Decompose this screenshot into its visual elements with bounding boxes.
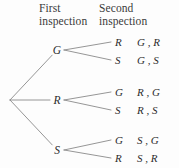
node-second-inspection-s-r: R bbox=[115, 153, 122, 164]
edge-r-to-s-1 bbox=[64, 100, 111, 110]
node-first-inspection-s: S bbox=[54, 145, 60, 156]
node-second-inspection-g-r: R bbox=[115, 37, 122, 48]
node-second-inspection-s-g: G bbox=[115, 135, 123, 146]
outcome-pair-s-g: S , G bbox=[137, 135, 159, 146]
outcome-pair-g-s: G , S bbox=[137, 55, 159, 66]
edge-root-to-g-0 bbox=[10, 55, 52, 100]
edge-s-to-g-0 bbox=[64, 140, 111, 150]
edge-g-to-s-1 bbox=[64, 50, 111, 60]
edge-root-to-s-2 bbox=[10, 100, 52, 145]
node-second-inspection-g-s: S bbox=[115, 55, 121, 66]
node-first-inspection-r: R bbox=[53, 95, 60, 106]
probability-tree-figure: First inspection Second inspection GRG ,… bbox=[0, 0, 179, 168]
node-second-inspection-r-s: S bbox=[115, 105, 121, 116]
outcome-pair-r-s: R , S bbox=[137, 105, 157, 116]
node-second-inspection-r-g: G bbox=[115, 87, 123, 98]
edge-g-to-r-0 bbox=[64, 42, 111, 50]
outcome-pair-s-r: S , R bbox=[137, 153, 157, 164]
outcome-pair-r-g: R , G bbox=[137, 87, 160, 98]
edge-s-to-r-1 bbox=[64, 150, 111, 158]
outcome-pair-g-r: G , R bbox=[137, 37, 160, 48]
node-first-inspection-g: G bbox=[53, 45, 61, 56]
edge-r-to-g-0 bbox=[64, 92, 111, 100]
